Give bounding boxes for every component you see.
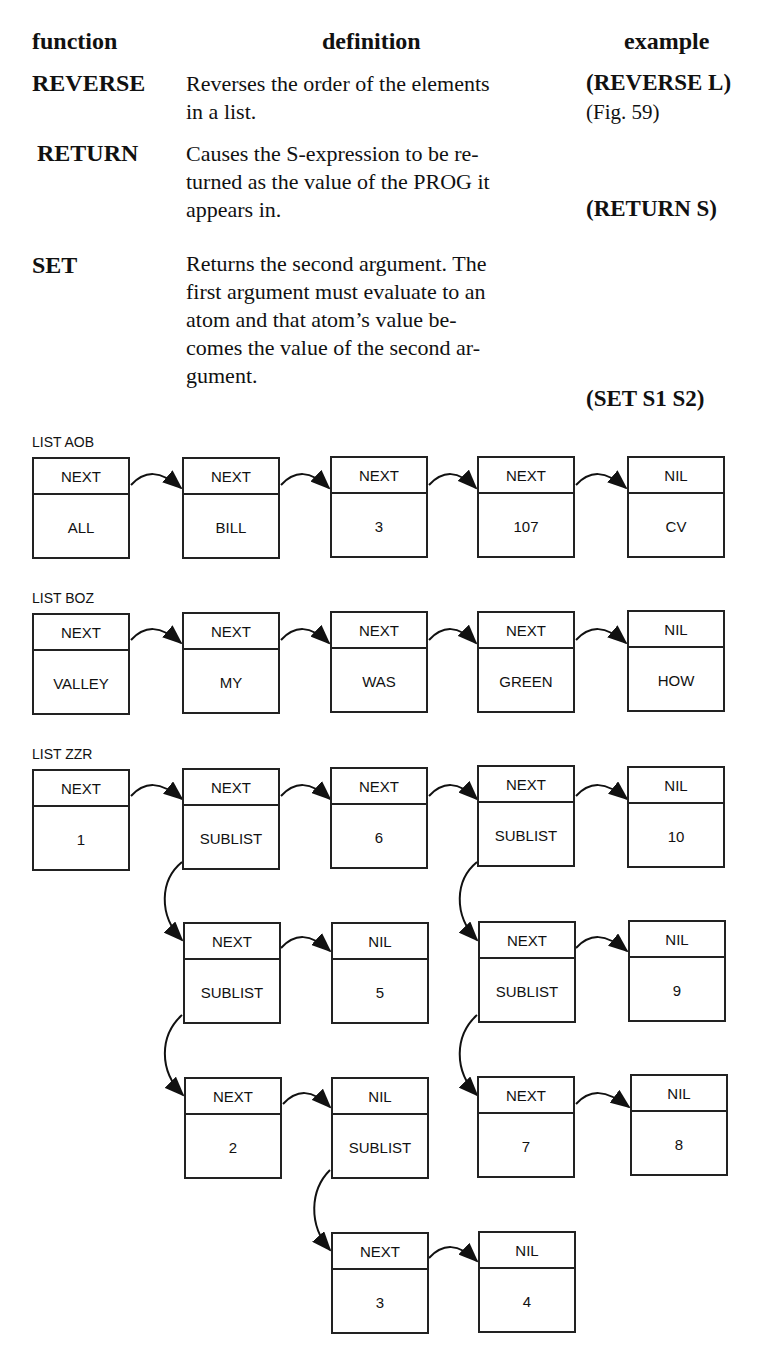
node-pointer: NIL	[333, 1079, 427, 1115]
node-value: SUBLIST	[185, 960, 279, 1024]
sublist-node: NEXT7	[477, 1076, 575, 1178]
list-node: NEXTALL	[32, 457, 130, 559]
list-node: NEXTMY	[182, 612, 280, 714]
node-value: 9	[630, 958, 724, 1022]
node-pointer: NEXT	[479, 1078, 573, 1114]
node-value: GREEN	[479, 649, 573, 713]
node-value: 4	[480, 1269, 574, 1333]
list-node: NILCV	[627, 456, 725, 558]
sublist-node: NIL4	[478, 1231, 576, 1333]
node-value: 8	[632, 1112, 726, 1176]
list-node: NEXT1	[32, 769, 130, 871]
list-node: NEXT107	[477, 456, 575, 558]
node-value: MY	[184, 650, 278, 714]
sublist-node: NEXT2	[184, 1077, 282, 1179]
node-value: 5	[333, 960, 427, 1024]
list-node: NEXTWAS	[330, 611, 428, 713]
node-value: VALLEY	[34, 651, 128, 715]
sublist-node: NIL8	[630, 1074, 728, 1176]
node-value: BILL	[184, 495, 278, 559]
node-pointer: NIL	[333, 924, 427, 960]
node-value: SUBLIST	[184, 806, 278, 870]
node-pointer: NIL	[480, 1233, 574, 1269]
node-pointer: NEXT	[184, 459, 278, 495]
node-value: 6	[332, 805, 426, 869]
node-value: SUBLIST	[480, 959, 574, 1023]
node-value: SUBLIST	[333, 1115, 427, 1179]
node-pointer: NEXT	[479, 458, 573, 494]
node-pointer: NEXT	[479, 767, 573, 803]
node-value: 107	[479, 494, 573, 558]
node-value: 2	[186, 1115, 280, 1179]
node-value: 3	[333, 1270, 427, 1334]
list-node: NEXT6	[330, 767, 428, 869]
node-pointer: NEXT	[184, 770, 278, 806]
list-node: NEXTGREEN	[477, 611, 575, 713]
sublist-node: NEXTSUBLIST	[183, 922, 281, 1024]
sublist-node: NEXTSUBLIST	[478, 921, 576, 1023]
sublist-node: NILSUBLIST	[331, 1077, 429, 1179]
list-label-aob: LIST AOB	[32, 434, 94, 450]
node-value: WAS	[332, 649, 426, 713]
node-pointer: NIL	[632, 1076, 726, 1112]
node-value: ALL	[34, 495, 128, 559]
list-node: NEXTBILL	[182, 457, 280, 559]
node-value: 10	[629, 804, 723, 868]
node-pointer: NEXT	[185, 924, 279, 960]
node-value: HOW	[629, 648, 723, 712]
node-pointer: NEXT	[186, 1079, 280, 1115]
node-value: SUBLIST	[479, 803, 573, 867]
list-label-boz: LIST BOZ	[32, 590, 94, 606]
node-pointer: NEXT	[332, 613, 426, 649]
node-value: CV	[629, 494, 723, 558]
node-pointer: NEXT	[479, 613, 573, 649]
node-pointer: NEXT	[332, 769, 426, 805]
list-label-zzr: LIST ZZR	[32, 746, 92, 762]
node-pointer: NEXT	[184, 614, 278, 650]
sublist-node: NEXT3	[331, 1232, 429, 1334]
node-pointer: NEXT	[333, 1234, 427, 1270]
sublist-node: NIL5	[331, 922, 429, 1024]
list-node: NEXTVALLEY	[32, 613, 130, 715]
node-pointer: NIL	[629, 458, 723, 494]
node-pointer: NEXT	[34, 459, 128, 495]
node-pointer: NEXT	[332, 458, 426, 494]
sublist-node: NIL9	[628, 920, 726, 1022]
list-node: NEXT3	[330, 456, 428, 558]
list-node: NIL10	[627, 766, 725, 868]
node-pointer: NEXT	[34, 771, 128, 807]
node-pointer: NIL	[630, 922, 724, 958]
node-value: 7	[479, 1114, 573, 1178]
node-pointer: NEXT	[34, 615, 128, 651]
list-node: NILHOW	[627, 610, 725, 712]
node-value: 3	[332, 494, 426, 558]
list-node: NEXTSUBLIST	[477, 765, 575, 867]
node-pointer: NIL	[629, 612, 723, 648]
node-pointer: NEXT	[480, 923, 574, 959]
list-node: NEXTSUBLIST	[182, 768, 280, 870]
node-pointer: NIL	[629, 768, 723, 804]
node-value: 1	[34, 807, 128, 871]
